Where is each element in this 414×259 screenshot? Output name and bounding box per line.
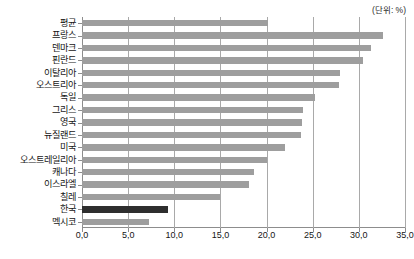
y-tick-mark bbox=[78, 73, 82, 74]
bar-row bbox=[82, 91, 405, 103]
x-tick-label: 5,0 bbox=[122, 230, 135, 240]
y-tick-mark bbox=[78, 98, 82, 99]
gridline bbox=[405, 17, 406, 228]
bar-row bbox=[82, 191, 405, 203]
unit-note: (단위: %) bbox=[372, 3, 406, 15]
y-tick-mark bbox=[78, 123, 82, 124]
bar-뉴질랜드 bbox=[82, 132, 301, 138]
bar-멕시코 bbox=[82, 219, 149, 225]
bar-row bbox=[82, 166, 405, 178]
category-label-한국: 한국 bbox=[60, 203, 76, 215]
category-label-영국: 영국 bbox=[60, 116, 76, 128]
bar-캐나다 bbox=[82, 169, 254, 175]
category-label-칠레: 칠레 bbox=[60, 191, 76, 203]
category-axis-labels: 평균프랑스덴마크핀란드이탈리아오스트리아독일그리스영국뉴질랜드미국오스트레일리아… bbox=[0, 17, 78, 228]
bar-row bbox=[82, 67, 405, 79]
bar-오스트레일리아 bbox=[82, 157, 267, 163]
category-label-오스트리아: 오스트리아 bbox=[36, 79, 76, 91]
bar-한국 bbox=[82, 206, 168, 212]
bar-평균 bbox=[82, 20, 268, 26]
y-tick-mark bbox=[78, 60, 82, 61]
y-tick-mark bbox=[78, 23, 82, 24]
x-axis-tick-labels: 0,05,010,015,020,025,030,035,0 bbox=[82, 230, 405, 250]
y-tick-mark bbox=[78, 48, 82, 49]
bar-row bbox=[82, 203, 405, 215]
category-label-미국: 미국 bbox=[60, 141, 76, 153]
bar-row bbox=[82, 17, 405, 29]
bar-프랑스 bbox=[82, 32, 383, 38]
bar-row bbox=[82, 42, 405, 54]
y-tick-mark bbox=[78, 147, 82, 148]
x-tick-label: 30,0 bbox=[350, 230, 368, 240]
y-tick-mark bbox=[78, 197, 82, 198]
x-tick-label: 25,0 bbox=[304, 230, 322, 240]
category-label-그리스: 그리스 bbox=[52, 104, 76, 116]
bar-row bbox=[82, 54, 405, 66]
bar-row bbox=[82, 154, 405, 166]
bar-row bbox=[82, 104, 405, 116]
bar-미국 bbox=[82, 144, 285, 150]
bar-칠레 bbox=[82, 194, 220, 200]
category-label-덴마크: 덴마크 bbox=[52, 42, 76, 54]
bar-덴마크 bbox=[82, 45, 371, 51]
bar-그리스 bbox=[82, 107, 303, 113]
bar-row bbox=[82, 216, 405, 228]
category-label-프랑스: 프랑스 bbox=[52, 29, 76, 41]
y-tick-mark bbox=[78, 160, 82, 161]
bar-이탈리아 bbox=[82, 70, 340, 76]
category-label-독일: 독일 bbox=[60, 91, 76, 103]
bar-row bbox=[82, 178, 405, 190]
x-tick-label: 35,0 bbox=[396, 230, 414, 240]
y-tick-mark bbox=[78, 222, 82, 223]
bar-핀란드 bbox=[82, 57, 363, 63]
y-tick-mark bbox=[78, 185, 82, 186]
bar-row bbox=[82, 79, 405, 91]
y-tick-mark bbox=[78, 172, 82, 173]
category-label-뉴질랜드: 뉴질랜드 bbox=[44, 129, 76, 141]
bar-row bbox=[82, 116, 405, 128]
category-label-이탈리아: 이탈리아 bbox=[44, 67, 76, 79]
category-label-이스라엘: 이스라엘 bbox=[44, 178, 76, 190]
y-tick-mark bbox=[78, 36, 82, 37]
y-tick-mark bbox=[78, 135, 82, 136]
plot-area bbox=[82, 17, 405, 228]
bar-row bbox=[82, 129, 405, 141]
category-label-오스트레일리아: 오스트레일리아 bbox=[20, 154, 76, 166]
y-tick-mark bbox=[78, 110, 82, 111]
x-tick-label: 10,0 bbox=[166, 230, 184, 240]
bar-rows bbox=[82, 17, 405, 228]
category-label-멕시코: 멕시코 bbox=[52, 216, 76, 228]
x-tick-label: 15,0 bbox=[212, 230, 230, 240]
bar-독일 bbox=[82, 94, 315, 100]
x-tick-label: 20,0 bbox=[258, 230, 276, 240]
bar-row bbox=[82, 29, 405, 41]
category-label-핀란드: 핀란드 bbox=[52, 54, 76, 66]
bar-이스라엘 bbox=[82, 181, 249, 187]
bar-영국 bbox=[82, 119, 302, 125]
category-label-평균: 평균 bbox=[60, 17, 76, 29]
y-tick-mark bbox=[78, 85, 82, 86]
bar-오스트리아 bbox=[82, 82, 339, 88]
category-label-캐나다: 캐나다 bbox=[52, 166, 76, 178]
x-tick-label: 0,0 bbox=[76, 230, 89, 240]
y-tick-mark bbox=[78, 209, 82, 210]
bar-row bbox=[82, 141, 405, 153]
